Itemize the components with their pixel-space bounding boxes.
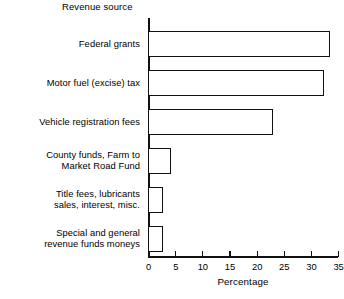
chart-title: Revenue source <box>62 1 133 12</box>
category-label: County funds, Farm to Market Road Fund <box>46 149 140 172</box>
x-tick-mark <box>257 251 258 257</box>
chart-figure: Revenue source Federal grantsMotor fuel … <box>0 0 344 299</box>
category-label: Motor fuel (excise) tax <box>47 77 140 89</box>
x-tick-label: 25 <box>279 261 289 272</box>
x-axis-title: Percentage <box>148 276 338 287</box>
x-tick-label: 15 <box>225 261 235 272</box>
bar <box>148 109 273 135</box>
x-tick-label: 30 <box>306 261 316 272</box>
bar <box>148 31 330 57</box>
x-tick-label: 20 <box>252 261 262 272</box>
x-tick-mark <box>229 251 230 257</box>
x-tick-mark <box>202 251 203 257</box>
category-label: Title fees, lubricants sales, interest, … <box>54 188 140 211</box>
category-label: Federal grants <box>79 38 140 50</box>
bar <box>148 226 163 252</box>
category-label: Vehicle registration fees <box>39 116 140 128</box>
category-label: Special and general revenue funds moneys <box>44 227 140 250</box>
x-tick-mark <box>311 251 312 257</box>
x-tick-label: 10 <box>198 261 208 272</box>
bar <box>148 70 324 96</box>
bar <box>148 148 171 174</box>
x-tick-label: 5 <box>173 261 178 272</box>
bar <box>148 187 163 213</box>
x-tick-label: 0 <box>146 261 151 272</box>
x-tick-mark <box>148 251 149 257</box>
plot-area <box>148 18 338 256</box>
x-tick-mark <box>338 251 339 257</box>
x-tick-mark <box>175 251 176 257</box>
x-axis-line <box>148 256 338 258</box>
x-tick-label: 35 <box>333 261 343 272</box>
x-tick-mark <box>284 251 285 257</box>
